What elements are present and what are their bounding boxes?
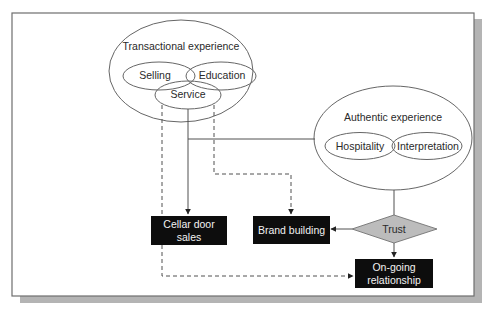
- ongoing-line2: relationship: [367, 274, 421, 286]
- hospitality-label: Hospitality: [336, 140, 385, 152]
- cellar-door-line1: Cellar door: [163, 218, 215, 230]
- transactional-title: Transactional experience: [123, 40, 240, 52]
- cellar-door-sales-node: Cellar door sales: [151, 216, 227, 245]
- authentic-ellipse: [314, 86, 472, 190]
- cellar-door-line2: sales: [177, 231, 202, 243]
- education-label: Education: [199, 69, 246, 81]
- ongoing-line1: On-going: [372, 261, 415, 273]
- service-label: Service: [170, 88, 205, 100]
- interpretation-label: Interpretation: [397, 140, 459, 152]
- ongoing-relationship-node: On-going relationship: [355, 259, 433, 288]
- trust-label: Trust: [382, 223, 406, 235]
- authentic-experience-cluster: Authentic experience Hospitality Interpr…: [314, 86, 472, 190]
- brand-building-label: Brand building: [258, 224, 325, 236]
- diagram-canvas: Transactional experience Selling Educati…: [0, 0, 492, 311]
- brand-building-node: Brand building: [253, 216, 330, 244]
- authentic-title: Authentic experience: [344, 111, 442, 123]
- selling-label: Selling: [139, 69, 171, 81]
